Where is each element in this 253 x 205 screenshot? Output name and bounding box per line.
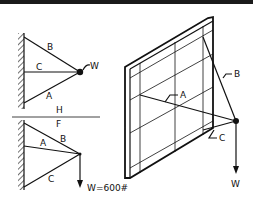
leader-b-3d: [223, 74, 232, 78]
member-c-3d: [203, 121, 236, 130]
wall-hatch-bottom: [18, 120, 24, 190]
isometric-panel-diagram: A B C W: [125, 17, 240, 189]
wall-hatch-top: [18, 33, 24, 109]
bottom-space-diagram: A B C W=600#: [18, 120, 128, 193]
label-b-3d: B: [234, 69, 240, 79]
label-c-bottom: C: [48, 174, 54, 184]
label-b-top: B: [47, 42, 53, 52]
label-h: H: [56, 105, 63, 115]
label-a-3d: A: [180, 90, 187, 100]
label-c-3d: C: [219, 133, 225, 143]
member-b-bottom: [24, 123, 80, 154]
label-w-3d: W: [231, 179, 240, 189]
label-a-bottom: A: [40, 138, 47, 148]
member-a-3d: [140, 95, 236, 121]
rail-middle: [130, 87, 213, 133]
rail-bottom: [130, 121, 213, 168]
arrow-down-icon: [233, 166, 239, 174]
arrow-down-icon: [77, 180, 83, 188]
label-b-bottom: B: [60, 134, 66, 144]
rail-upper: [130, 54, 213, 100]
leader-c-3d: [209, 130, 217, 138]
divider: H F: [12, 105, 100, 129]
label-w-top: W: [90, 61, 99, 71]
w-leader-top: [83, 65, 90, 70]
panel-outline: [125, 17, 213, 178]
label-c-top: C: [36, 62, 42, 72]
panel-top-inner-edge: [130, 21, 213, 69]
label-load-bottom: W=600#: [87, 183, 128, 193]
member-b-3d: [203, 37, 236, 121]
label-a-top: A: [46, 91, 53, 101]
label-f: F: [56, 119, 61, 129]
leader-a-3d: [165, 95, 178, 102]
rail-top: [130, 30, 213, 78]
force-diagrams: B C A W H F A B C W=600#: [0, 0, 253, 205]
top-space-diagram: B C A W: [18, 33, 99, 109]
joint-node-top: [77, 69, 83, 75]
